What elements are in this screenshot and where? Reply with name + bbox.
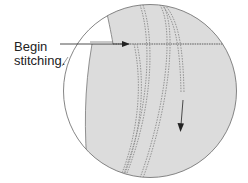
begin-stitching-label-line1: Begin: [14, 40, 47, 54]
begin-stitching-label-line2: stitching.: [14, 54, 65, 68]
stitching-diagram: [0, 0, 248, 183]
